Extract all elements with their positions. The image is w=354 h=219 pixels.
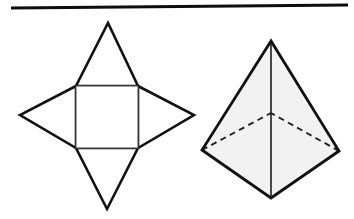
top-horizontal-rule — [11, 5, 348, 8]
net-triangle-right — [138, 86, 194, 148]
pyramid-net — [20, 23, 194, 209]
net-triangle-top — [76, 23, 138, 86]
geometry-diagram — [0, 0, 354, 219]
net-triangle-bottom — [76, 148, 138, 209]
net-square-base — [76, 86, 138, 148]
figure-container: Square pyramid net and solid pyramid net… — [0, 0, 354, 219]
net-triangle-left — [20, 86, 76, 148]
square-pyramid-solid — [202, 41, 339, 198]
